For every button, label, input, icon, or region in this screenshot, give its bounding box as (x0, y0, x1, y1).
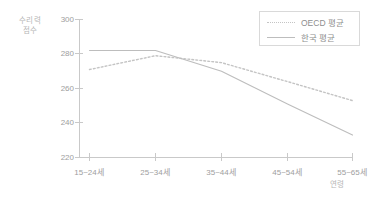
legend-swatch-dotted-line-icon (267, 17, 295, 27)
x-tick-label-25-34: 25~34세 (124, 166, 186, 177)
y-tick-label-300: 300 (48, 15, 74, 24)
legend-swatch-solid-line-icon (267, 32, 295, 42)
chart-legend: OECD 평균 한국 평균 (259, 11, 360, 46)
series-line-oecd-average (90, 56, 353, 101)
x-tick-label-35-44: 35~44세 (190, 166, 252, 177)
legend-label-oecd-average: OECD 평균 (301, 16, 344, 28)
x-tick-label-55-65: 55~65세 (321, 166, 370, 177)
y-tick-label-280: 280 (48, 49, 74, 58)
x-tick-label-15-24: 15~24세 (58, 166, 120, 177)
y-tick-label-220: 220 (48, 153, 74, 162)
legend-item-oecd-average: OECD 평균 (260, 14, 359, 30)
legend-label-korea-average: 한국 평균 (301, 31, 335, 43)
numeracy-score-line-chart: 수리력 점수 연령 300 280 260 (0, 0, 370, 203)
legend-item-korea-average: 한국 평균 (260, 29, 359, 45)
y-tick-label-260: 260 (48, 84, 74, 93)
y-tick-label-240: 240 (48, 118, 74, 127)
x-tick-label-45-54: 45~54세 (256, 166, 318, 177)
